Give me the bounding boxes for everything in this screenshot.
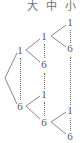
edge-medium1-to-small-1 [51, 25, 66, 36]
edge-medium1-to-small-6 [51, 36, 66, 47]
node-small-upper-6: 6 [66, 43, 74, 54]
ellipsis-medium-middle [44, 73, 47, 89]
ellipsis-medium-lower [44, 102, 47, 116]
node-large-6: 6 [16, 101, 24, 112]
edge-medium6-to-small-1 [51, 112, 66, 122]
node-small-lower-1: 1 [66, 105, 74, 116]
ellipsis-small-middle [70, 57, 73, 105]
ellipsis-medium-upper [44, 44, 47, 58]
node-small-lower-6: 6 [66, 131, 74, 142]
edge-large6-to-medium-6 [26, 106, 40, 119]
node-medium-upper-6: 6 [40, 59, 48, 70]
edge-large6-to-medium-1 [26, 96, 40, 106]
edge-large1-to-medium-6 [26, 50, 40, 62]
dice-tree-diagram: 大 中 小 1 6 1 6 1 6 1 6 1 6 [0, 0, 84, 143]
node-large-1: 1 [16, 45, 24, 56]
node-medium-lower-6: 6 [40, 117, 48, 128]
node-medium-upper-1: 1 [40, 31, 48, 42]
edge-large1-to-medium-1 [26, 39, 40, 50]
node-medium-lower-1: 1 [40, 89, 48, 100]
edge-medium6-to-small-6 [51, 122, 66, 134]
node-small-upper-1: 1 [66, 17, 74, 28]
ellipsis-large [20, 58, 23, 100]
edge-root-to-large-1 [5, 53, 17, 78]
